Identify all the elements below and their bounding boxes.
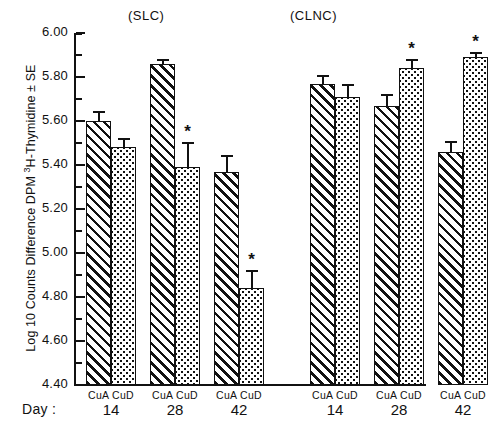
y-tick-major — [76, 164, 85, 166]
error-bar-cap — [182, 142, 194, 144]
y-tick-label: 5.60 — [12, 112, 68, 127]
bar-cud-day14 — [335, 97, 360, 385]
error-bar-stem — [226, 155, 228, 172]
error-bar-cap — [246, 270, 258, 272]
error-bar-cap — [93, 111, 105, 113]
bar-cua-day14 — [86, 121, 111, 385]
significance-asterisk: * — [184, 123, 191, 140]
bar-cud-day28 — [399, 68, 424, 385]
y-tick-minor — [76, 186, 82, 188]
pair-label-day42: CuA CuD — [440, 389, 486, 401]
error-bar-stem — [187, 142, 189, 167]
y-tick-label: 4.80 — [12, 288, 68, 303]
error-bar — [406, 59, 418, 68]
bar-cua-day14 — [310, 84, 335, 385]
error-bar — [182, 142, 194, 167]
group-title-clnc: (CLNC) — [290, 8, 337, 23]
y-tick-label: 5.20 — [12, 200, 68, 215]
error-bar-cap — [445, 141, 457, 143]
error-bar — [221, 155, 233, 172]
bar-cua-day28 — [374, 106, 399, 385]
y-tick-major — [76, 296, 85, 298]
error-bar — [445, 141, 457, 152]
day-caption: Day : — [22, 401, 56, 417]
y-tick-minor — [76, 98, 82, 100]
bar-cud-day42 — [463, 57, 488, 385]
significance-asterisk: * — [408, 40, 415, 57]
group-title-slc: (SLC) — [128, 8, 164, 23]
y-tick-label: 4.60 — [12, 332, 68, 347]
error-bar-cap — [342, 84, 354, 86]
day-value-14: 14 — [103, 401, 120, 418]
significance-asterisk: * — [472, 33, 479, 50]
significance-asterisk: * — [248, 251, 255, 268]
y-tick-major — [76, 340, 85, 342]
y-tick-minor — [76, 274, 82, 276]
y-tick-major — [76, 32, 85, 34]
error-bar-cap — [406, 59, 418, 61]
error-bar-stem — [251, 270, 253, 289]
error-bar-cap — [221, 155, 233, 157]
y-tick-minor — [76, 318, 82, 320]
bar-cua-day42 — [438, 152, 463, 385]
y-tick-label: 5.00 — [12, 244, 68, 259]
y-tick-major — [76, 252, 85, 254]
error-bar — [317, 75, 329, 84]
error-bar — [118, 138, 130, 148]
day-value-42: 42 — [231, 401, 248, 418]
pair-label-day14: CuA CuD — [88, 389, 134, 401]
error-bar — [157, 59, 169, 64]
error-bar-cap — [470, 52, 482, 54]
pair-label-day42: CuA CuD — [216, 389, 262, 401]
error-bar-cap — [381, 94, 393, 96]
error-bar — [342, 84, 354, 97]
y-tick-major — [76, 120, 85, 122]
pair-label-day28: CuA CuD — [376, 389, 422, 401]
error-bar — [470, 52, 482, 58]
bar-cud-day14 — [111, 147, 136, 385]
y-tick-label: 4.40 — [12, 376, 68, 391]
error-bar — [246, 270, 258, 289]
bar-cud-day42 — [239, 288, 264, 385]
bar-cud-day28 — [175, 167, 200, 385]
error-bar — [381, 94, 393, 106]
pair-label-day14: CuA CuD — [312, 389, 358, 401]
y-tick-label: 5.40 — [12, 156, 68, 171]
y-tick-major — [76, 384, 85, 386]
error-bar — [93, 111, 105, 121]
error-bar-cap — [317, 75, 329, 77]
y-tick-label: 6.00 — [12, 24, 68, 39]
bar-cua-day28 — [150, 64, 175, 385]
error-bar-cap — [157, 59, 169, 61]
y-tick-label: 5.80 — [12, 68, 68, 83]
y-tick-major — [76, 208, 85, 210]
y-tick-minor — [76, 142, 82, 144]
bar-cua-day42 — [214, 172, 239, 385]
day-value-28: 28 — [167, 401, 184, 418]
error-bar-cap — [118, 138, 130, 140]
y-tick-minor — [76, 230, 82, 232]
y-tick-minor — [76, 54, 82, 56]
day-value-42: 42 — [455, 401, 472, 418]
y-tick-minor — [76, 362, 82, 364]
pair-label-day28: CuA CuD — [152, 389, 198, 401]
day-value-28: 28 — [391, 401, 408, 418]
day-value-14: 14 — [327, 401, 344, 418]
y-tick-major — [76, 76, 85, 78]
